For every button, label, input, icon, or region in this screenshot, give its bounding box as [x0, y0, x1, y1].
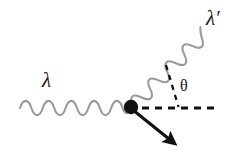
incoming-photon-label: λ [42, 70, 51, 91]
incoming-photon-wave [20, 101, 131, 115]
outgoing-photon-wave-group [127, 27, 211, 111]
outgoing-photon-label: λ′ [206, 8, 220, 29]
compton-scattering-figure: λ λ′ θ [0, 0, 242, 161]
interaction-vertex-dot [124, 100, 138, 114]
outgoing-photon-wave [127, 27, 211, 111]
recoil-electron-arrow [133, 110, 174, 143]
scattering-angle-label: θ [180, 78, 188, 94]
